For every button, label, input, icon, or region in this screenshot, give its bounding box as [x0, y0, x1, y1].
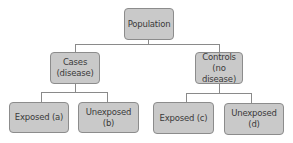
connector-to-exposed-a: [41, 92, 42, 102]
unexposed-d-label: Unexposed (d): [225, 108, 283, 130]
cases-label: Cases: [63, 57, 87, 68]
exposed-a-node: Exposed (a): [9, 102, 69, 133]
connector-controls-bar: [186, 93, 252, 94]
controls-sublabel: (no disease): [196, 63, 242, 85]
population-node: Population: [124, 8, 174, 40]
connector-to-unexposed-b: [107, 92, 108, 102]
exposed-c-node: Exposed (c): [153, 102, 214, 134]
connector-cases-bar: [41, 92, 108, 93]
cases-sublabel: (disease): [56, 68, 93, 79]
unexposed-b-node: Unexposed (b): [78, 102, 139, 133]
unexposed-d-node: Unexposed (d): [224, 103, 284, 135]
connector-to-cases: [75, 44, 76, 52]
population-label: Population: [128, 19, 171, 30]
exposed-a-label: Exposed (a): [15, 112, 63, 123]
connector-to-unexposed-d: [251, 93, 252, 103]
controls-node: Controls (no disease): [195, 52, 243, 84]
unexposed-b-label: Unexposed (b): [79, 107, 138, 129]
exposed-c-label: Exposed (c): [160, 113, 208, 124]
connector-to-exposed-c: [186, 93, 187, 102]
cases-node: Cases (disease): [50, 52, 100, 84]
connector-controls-down: [219, 84, 220, 93]
connector-cases-down: [75, 84, 76, 92]
controls-label: Controls: [202, 52, 236, 63]
connector-level1-bar: [75, 44, 220, 45]
